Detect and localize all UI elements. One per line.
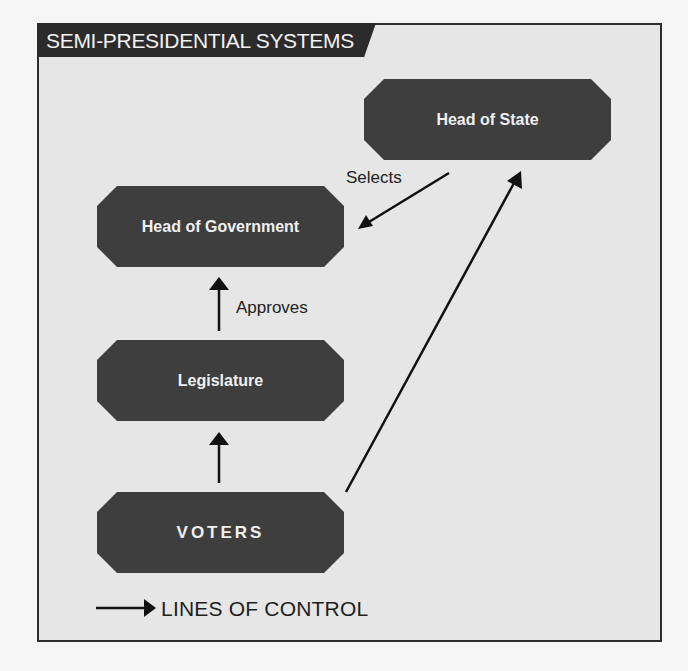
node-label: VOTERS [177,523,265,543]
node-head-of-state: Head of State [364,79,611,160]
node-label: Head of State [436,111,538,129]
node-label: Head of Government [142,218,299,236]
node-label: Legislature [178,372,263,390]
legend-label: LINES OF CONTROL [161,597,368,621]
edge-label-selects: Selects [346,168,402,188]
node-voters: VOTERS [97,492,344,573]
diagram-title: SEMI-PRESIDENTIAL SYSTEMS [46,28,354,54]
edge-label-approves: Approves [236,298,308,318]
node-head-of-government: Head of Government [97,186,344,267]
node-legislature: Legislature [97,340,344,421]
